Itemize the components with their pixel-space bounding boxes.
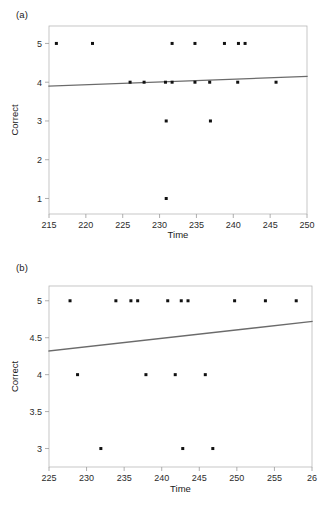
data-point bbox=[114, 299, 117, 302]
data-point bbox=[144, 373, 147, 376]
y-tick-label: 4 bbox=[37, 370, 42, 380]
y-tick-label: 1 bbox=[37, 194, 42, 204]
x-tick-label: 215 bbox=[41, 220, 56, 230]
y-axis-title: Correct bbox=[9, 104, 20, 136]
x-tick-label: 245 bbox=[192, 473, 207, 483]
y-tick-label: 4.5 bbox=[29, 333, 42, 343]
data-point bbox=[193, 81, 196, 84]
plot-frame bbox=[49, 26, 307, 214]
x-tick-label: 225 bbox=[115, 220, 130, 230]
x-tick-label: 250 bbox=[229, 473, 244, 483]
y-tick-label: 4 bbox=[37, 78, 42, 88]
data-point bbox=[223, 42, 226, 45]
panel-b: (b) 2252302352402452502552633.544.55Time… bbox=[0, 258, 323, 513]
data-point bbox=[164, 81, 167, 84]
data-point bbox=[99, 447, 102, 450]
y-tick-label: 2 bbox=[37, 155, 42, 165]
x-tick-label: 235 bbox=[189, 220, 204, 230]
data-point bbox=[174, 373, 177, 376]
y-tick-label: 5 bbox=[37, 39, 42, 49]
data-point bbox=[171, 81, 174, 84]
x-tick-label: 250 bbox=[299, 220, 314, 230]
data-point bbox=[209, 119, 212, 122]
data-point bbox=[181, 447, 184, 450]
scatter-figure: (a) 21522022523023524024525012345TimeCor… bbox=[0, 0, 323, 513]
y-tick-label: 3.5 bbox=[29, 407, 42, 417]
x-tick-label: 255 bbox=[267, 473, 282, 483]
data-point bbox=[76, 373, 79, 376]
data-point bbox=[204, 373, 207, 376]
panel-b-plot: 2252302352402452502552633.544.55TimeCorr… bbox=[0, 258, 323, 513]
regression-line bbox=[49, 321, 312, 351]
data-point bbox=[187, 299, 190, 302]
y-tick-label: 5 bbox=[37, 296, 42, 306]
x-axis-title: Time bbox=[168, 229, 189, 240]
x-tick-label: 240 bbox=[226, 220, 241, 230]
x-tick-label: 230 bbox=[152, 220, 167, 230]
x-tick-label: 220 bbox=[78, 220, 93, 230]
data-point bbox=[275, 81, 278, 84]
x-tick-label: 225 bbox=[41, 473, 56, 483]
x-tick-label: 240 bbox=[154, 473, 169, 483]
data-point bbox=[208, 81, 211, 84]
data-point bbox=[166, 299, 169, 302]
panel-a-plot: 21522022523023524024525012345TimeCorrect bbox=[0, 0, 323, 258]
x-tick-label: 230 bbox=[79, 473, 94, 483]
data-point bbox=[171, 42, 174, 45]
x-tick-label: 26 bbox=[307, 473, 317, 483]
x-tick-label: 245 bbox=[263, 220, 278, 230]
data-point bbox=[165, 197, 168, 200]
panel-a: (a) 21522022523023524024525012345TimeCor… bbox=[0, 0, 323, 258]
y-tick-label: 3 bbox=[37, 444, 42, 454]
data-point bbox=[91, 42, 94, 45]
data-point bbox=[69, 299, 72, 302]
data-point bbox=[264, 299, 267, 302]
plot-frame bbox=[49, 286, 312, 467]
y-tick-label: 3 bbox=[37, 116, 42, 126]
data-point bbox=[211, 447, 214, 450]
regression-line bbox=[49, 76, 307, 86]
data-point bbox=[129, 81, 132, 84]
data-point bbox=[237, 42, 240, 45]
data-point bbox=[143, 81, 146, 84]
y-axis-title: Correct bbox=[9, 361, 20, 393]
data-point bbox=[244, 42, 247, 45]
x-tick-label: 235 bbox=[117, 473, 132, 483]
data-point bbox=[233, 299, 236, 302]
data-point bbox=[136, 299, 139, 302]
x-axis-title: Time bbox=[170, 483, 191, 494]
data-point bbox=[165, 119, 168, 122]
data-point bbox=[180, 299, 183, 302]
data-point bbox=[129, 299, 132, 302]
data-point bbox=[193, 42, 196, 45]
data-point bbox=[55, 42, 58, 45]
data-point bbox=[236, 81, 239, 84]
data-point bbox=[295, 299, 298, 302]
